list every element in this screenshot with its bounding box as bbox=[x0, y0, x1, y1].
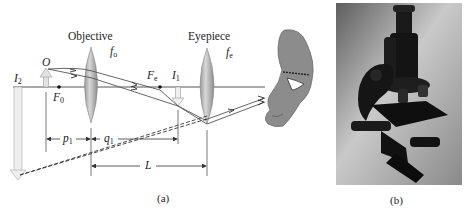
eye-illustration bbox=[265, 30, 313, 127]
object-distance-label: p1 bbox=[63, 133, 73, 146]
objective-focal-label: fo bbox=[110, 46, 117, 59]
final-image-arrow bbox=[10, 87, 26, 180]
objective-focal-point-label: F0 bbox=[53, 92, 64, 105]
objective-lens bbox=[85, 47, 98, 123]
image-distance-label: q1 bbox=[104, 133, 114, 146]
microscope-ray-diagram bbox=[0, 0, 335, 212]
microscope-photo bbox=[336, 3, 462, 185]
intermediate-image-arrow bbox=[172, 87, 184, 106]
object-label: O bbox=[42, 57, 50, 69]
eyepiece-label: Eyepiece bbox=[188, 31, 230, 43]
final-image-label: I2 bbox=[14, 73, 22, 86]
eyepiece-focal-point bbox=[158, 85, 162, 89]
objective-label: Objective bbox=[68, 31, 113, 43]
eyepiece-focal-label: fe bbox=[226, 47, 233, 60]
object-arrow bbox=[40, 68, 52, 87]
intermediate-image-label: I1 bbox=[172, 70, 180, 83]
eyepiece-focal-point-label: Fe bbox=[147, 70, 158, 83]
eyepiece-lens bbox=[200, 48, 214, 124]
lens-separation-label: L bbox=[145, 160, 151, 172]
panel-b-caption: (b) bbox=[390, 195, 403, 206]
objective-focal-point bbox=[57, 85, 61, 89]
panel-a-caption: (a) bbox=[157, 193, 169, 204]
